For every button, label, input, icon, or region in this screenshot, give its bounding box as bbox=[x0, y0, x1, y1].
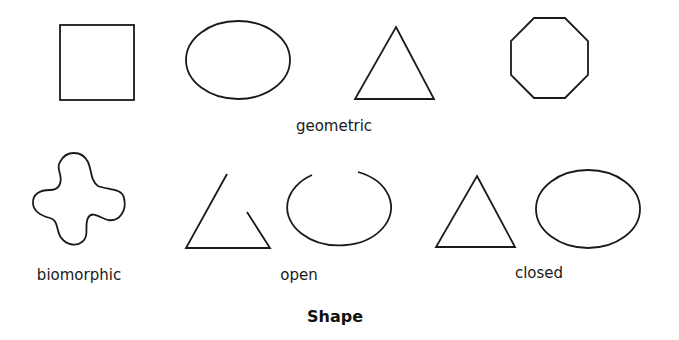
closed-ellipse-shape bbox=[536, 170, 640, 248]
open-ellipse-shape bbox=[287, 172, 391, 245]
octagon-shape bbox=[511, 18, 588, 98]
biomorphic-shape bbox=[33, 153, 125, 245]
closed-label: closed bbox=[515, 264, 563, 282]
biomorphic-group: biomorphic bbox=[33, 153, 125, 284]
square-shape bbox=[60, 25, 134, 100]
open-triangle-shape bbox=[186, 174, 270, 248]
geometric-label: geometric bbox=[296, 117, 372, 135]
geometric-group: geometric bbox=[60, 18, 588, 135]
figure-title: Shape bbox=[307, 307, 363, 326]
open-label: open bbox=[280, 266, 317, 284]
closed-triangle-shape bbox=[436, 176, 515, 247]
shape-diagram: geometric biomorphic open closed Shape bbox=[0, 0, 679, 340]
closed-group: closed bbox=[436, 170, 640, 282]
triangle-shape bbox=[355, 27, 434, 99]
ellipse-shape bbox=[186, 21, 290, 99]
biomorphic-label: biomorphic bbox=[37, 266, 121, 284]
open-group: open bbox=[186, 172, 391, 284]
